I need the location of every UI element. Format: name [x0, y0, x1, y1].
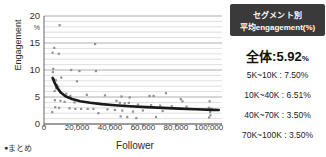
total-engagement-row: 全体:5.92% — [230, 46, 325, 65]
plot-area — [0, 0, 228, 157]
segment-summary-panel: セグメント別 平均engagement(%) 全体:5.92% 5K~10K :… — [230, 0, 326, 157]
panel-header: セグメント別 平均engagement(%) — [230, 4, 325, 36]
segment-row-40k-70k: 40K~70K : 3.50% — [230, 110, 325, 120]
footnote: ●まとめ — [4, 142, 32, 153]
chart-screenshot-root: Engagement % 05101520 020,00040,00060,00… — [0, 0, 326, 157]
x-axis-title: Follower — [60, 140, 210, 151]
total-label: 全体: — [246, 49, 276, 64]
panel-header-line1: セグメント別 — [253, 9, 303, 20]
total-unit: % — [302, 54, 309, 63]
segment-row-70k-100k: 70K~100K : 3.50% — [230, 130, 325, 140]
total-value: 5.92 — [276, 49, 301, 64]
segment-row-10k-40k: 10K~40K : 6.51% — [230, 90, 325, 100]
footnote-text: まとめ — [8, 144, 32, 153]
segment-row-5k-10k: 5K~10K : 7.50% — [230, 70, 325, 80]
scatter-chart: Engagement % 05101520 020,00040,00060,00… — [0, 0, 228, 157]
panel-header-line2: 平均engagement(%) — [240, 21, 316, 32]
